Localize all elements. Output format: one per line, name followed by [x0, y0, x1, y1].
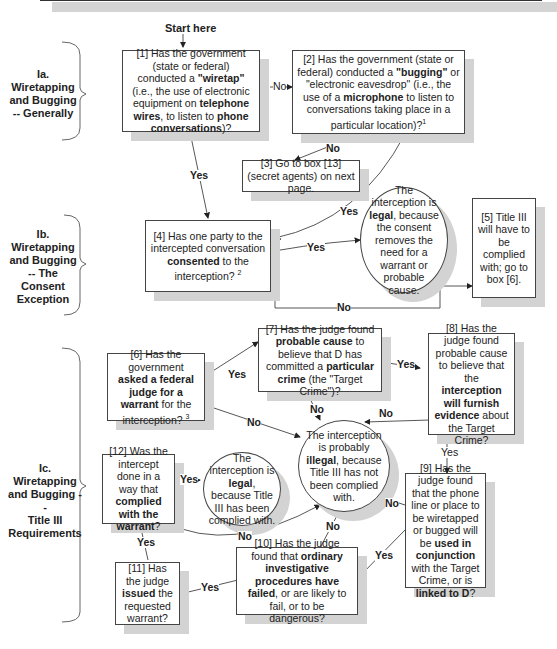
box-10-ordinary-procedures: [10] Has the judge found that ordinary i…	[236, 547, 358, 615]
edge-label-b8-illegal: No	[379, 408, 393, 419]
edge-label-b6-b7: Yes	[228, 369, 246, 380]
text: The interception is	[372, 184, 437, 209]
text: [12] Was the intercept done in a way tha…	[109, 445, 168, 495]
edge-label-b7-b8: Yes	[397, 359, 415, 370]
box-1-wiretap: [1] Has the government (state or federal…	[122, 50, 260, 132]
text: [8] Has the judge found probable cause t…	[436, 322, 508, 384]
text-bold: illegal	[306, 454, 336, 466]
text: )?	[222, 122, 231, 134]
text-bold: probable cause	[276, 335, 353, 347]
text: (the "Target Crime")?	[299, 373, 362, 398]
section-label-line: Wiretapping	[8, 81, 78, 94]
text: ?	[469, 587, 475, 599]
section-ib-label: Ib. Wiretapping and Bugging -- The Conse…	[8, 228, 78, 306]
section-label-line: -- Generally	[8, 107, 78, 120]
text: , because the consent removes the need f…	[375, 209, 439, 296]
edge-label-b9-b10: Yes	[375, 550, 393, 561]
box-6-warrant-request: [6] Has the government asked a federal j…	[107, 353, 205, 421]
text-bold: "wiretap"	[198, 72, 245, 84]
section-label-line: Wiretapping	[8, 241, 78, 254]
box-5-title-iii: [5] Title III will have to be complied w…	[472, 198, 536, 298]
edge-label-b2-b3: No	[326, 143, 340, 154]
section-label-line: Requirements	[8, 527, 82, 540]
box-3-go-to-13: [3] Go to box [13] (secret agents) on ne…	[242, 160, 360, 192]
edge-label-b1-b2: No	[273, 81, 286, 92]
text: with the Target Crime, or is	[411, 562, 479, 587]
section-ia-label: Ia. Wiretapping and Bugging -- Generally	[8, 68, 78, 120]
text-bold: legal	[369, 209, 393, 221]
edge-label-b6-illegal: No	[247, 417, 261, 428]
edge-label-b9-illegal: No	[385, 498, 399, 509]
section-label-line: Ic.	[8, 462, 82, 475]
edge-label-b12-illegal: No	[238, 531, 252, 542]
section-label-line: and Bugging --	[8, 488, 82, 514]
edge-label-b2-b4: Yes	[340, 206, 358, 217]
text: [3] Go to box [13] (secret agents) on ne…	[247, 157, 355, 195]
edge-label-b11-b12: Yes	[137, 537, 155, 548]
text-bold: linked to D	[416, 587, 470, 599]
text: [4] Has one party to the intercepted con…	[151, 230, 265, 255]
edge-label-b8-b9: Yes	[441, 447, 458, 458]
text: [9] Has the judge found that the phone l…	[411, 462, 479, 549]
text: [7] Has the judge found	[266, 323, 375, 335]
box-12-complied-warrant: [12] Was the intercept done in a way tha…	[102, 454, 175, 524]
edge-label-b7-illegal: No	[310, 404, 324, 415]
edge-label-b10-illegal: No	[326, 521, 340, 532]
box-4-consent: [4] Has one party to the intercepted con…	[145, 220, 271, 292]
footnote-marker: 2	[238, 269, 242, 276]
box-7-probable-cause: [7] Has the judge found probable cause t…	[258, 328, 382, 392]
text: The interception is	[210, 452, 275, 477]
section-label-line: Wiretapping	[8, 475, 82, 488]
outcome-legal-title-iii: The interception is legal, because Title…	[203, 452, 281, 526]
edge-label-b4-b5: No	[337, 302, 351, 313]
section-label-line: Exception	[8, 293, 78, 306]
text-bold: "bugging"	[396, 66, 447, 78]
edge-label-b1-b4: Yes	[190, 170, 208, 181]
edge-label-b10-b11: Yes	[201, 582, 219, 593]
footnote-marker: 3	[186, 413, 190, 420]
outcome-legal-consent: The interception is legal, because the c…	[360, 187, 448, 293]
text: , or are likely to fail, or to be danger…	[269, 587, 346, 624]
box-11-warrant-issued: [11] Has the judge issued the requested …	[115, 562, 180, 625]
section-label-line: -- The	[8, 267, 78, 280]
section-label-line: Ia.	[8, 68, 78, 81]
text: The interception is probably	[306, 429, 381, 454]
box-8-furnish-evidence: [8] Has the judge found probable cause t…	[428, 333, 515, 435]
text: [5] Title III will have to be complied w…	[477, 211, 531, 286]
text-bold: consented	[167, 255, 220, 267]
box-2-bugging: [2] Has the government (state or federal…	[292, 50, 465, 134]
text: [11] Has the judge	[126, 562, 169, 587]
section-label-line: and Bugging	[8, 254, 78, 267]
text-bold: issued	[122, 587, 155, 599]
section-label-line: Consent	[8, 280, 78, 293]
text-bold: microphone	[343, 91, 403, 103]
edge-label-b12-legal: Yes	[180, 474, 198, 485]
text: ?	[155, 520, 161, 532]
text-bold: legal	[229, 477, 253, 489]
outcome-illegal: The interception is probably illegal, be…	[298, 420, 390, 512]
footnote-marker: 1	[422, 118, 426, 125]
section-label-line: and Bugging	[8, 94, 78, 107]
section-label-line: Ib.	[8, 228, 78, 241]
edge-label-b4-legal: Yes	[307, 242, 325, 253]
text: , to listen to	[160, 110, 217, 122]
section-label-line: Title III	[8, 514, 82, 527]
box-9-linked-to-d: [9] Has the judge found that the phone l…	[405, 473, 486, 588]
text: [6] Has the government	[128, 348, 183, 373]
section-ic-label: Ic. Wiretapping and Bugging -- Title III…	[8, 462, 82, 540]
